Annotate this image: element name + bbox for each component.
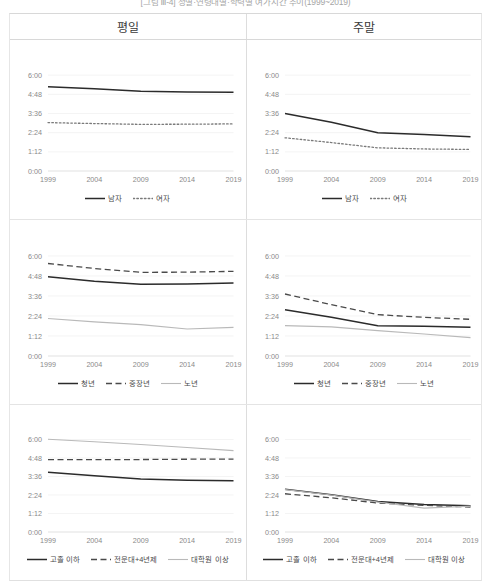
x-tick-label: 2004 [86, 175, 102, 184]
legend-key-icon [27, 556, 47, 563]
y-tick-label: 1:12 [265, 147, 279, 156]
legend-label: 청년 [317, 380, 331, 387]
series-line-여자 [285, 138, 471, 150]
y-tick-label: 4:48 [265, 454, 279, 463]
y-tick-label: 2:24 [28, 491, 42, 500]
figure-table: 평일 주말 0:001:122:243:364:486:001999200420… [9, 13, 482, 581]
y-tick-label: 6:00 [265, 71, 279, 80]
chart-cell-education-weekday: 0:001:122:243:364:486:001999200420092014… [10, 405, 246, 580]
chart-legend-education-weekend: 고졸 이하전문대+4년제대학원 이상 [247, 556, 483, 563]
legend-key-icon [133, 195, 153, 202]
legend-item[interactable]: 전문대+4년제 [91, 556, 157, 563]
figure-title: [그림 Ⅲ-4] 성별·연령대별·학력별 여가시간 추이(1999~2019) [0, 0, 491, 8]
y-tick-label: 3:36 [28, 472, 42, 481]
series-line-청년 [48, 277, 234, 285]
series-line-고졸 이하 [285, 489, 471, 506]
y-tick-label: 1:12 [265, 332, 279, 341]
y-tick-label: 4:48 [28, 454, 42, 463]
column-header-row: 평일 주말 [10, 14, 481, 40]
x-tick-label: 1999 [277, 360, 293, 369]
x-tick-label: 2009 [369, 175, 385, 184]
legend-item[interactable]: 남자 [322, 195, 359, 202]
legend-item[interactable]: 여자 [370, 195, 407, 202]
legend-key-icon [405, 556, 425, 563]
panel-education-weekday: 0:001:122:243:364:486:001999200420092014… [10, 405, 246, 580]
legend-label: 여자 [393, 195, 407, 202]
x-tick-label: 1999 [40, 536, 56, 545]
legend-item[interactable]: 청년 [58, 380, 95, 387]
series-line-중장년 [48, 264, 234, 273]
x-tick-label: 2004 [86, 536, 102, 545]
chart-row-gender: 0:001:122:243:364:486:001999200420092014… [10, 40, 481, 220]
x-tick-label: 2009 [133, 536, 149, 545]
legend-item[interactable]: 남자 [85, 195, 122, 202]
series-line-남자 [48, 87, 234, 93]
x-tick-label: 1999 [40, 175, 56, 184]
legend-item[interactable]: 고졸 이하 [263, 556, 316, 563]
y-tick-label: 1:12 [265, 509, 279, 518]
chart-svg-education-weekend: 0:001:122:243:364:486:001999200420092014… [247, 405, 483, 554]
y-tick-label: 3:36 [265, 472, 279, 481]
x-tick-label: 2014 [179, 175, 195, 184]
legend-key-icon [397, 380, 417, 387]
series-line-여자 [48, 123, 234, 125]
legend-item[interactable]: 전문대+4년제 [328, 556, 394, 563]
chart-svg-gender-weekend: 0:001:122:243:364:486:001999200420092014… [247, 40, 483, 193]
y-tick-label: 3:36 [265, 109, 279, 118]
y-tick-label: 6:00 [28, 252, 42, 261]
column-header-weekend: 주말 [246, 14, 482, 39]
legend-item[interactable]: 고졸 이하 [27, 556, 80, 563]
legend-key-icon [370, 195, 390, 202]
legend-key-icon [85, 195, 105, 202]
y-tick-label: 6:00 [28, 435, 42, 444]
x-tick-label: 1999 [40, 360, 56, 369]
x-tick-label: 2004 [86, 360, 102, 369]
legend-label: 고졸 이하 [50, 556, 80, 563]
chart-legend-education-weekday: 고졸 이하전문대+4년제대학원 이상 [10, 556, 246, 563]
x-tick-label: 2019 [462, 360, 478, 369]
legend-key-icon [168, 556, 188, 563]
x-tick-label: 2019 [462, 536, 478, 545]
y-tick-label: 2:24 [28, 128, 42, 137]
x-tick-label: 2009 [133, 360, 149, 369]
chart-svg-education-weekday: 0:001:122:243:364:486:001999200420092014… [10, 405, 246, 554]
x-tick-label: 2004 [323, 175, 339, 184]
y-tick-label: 2:24 [28, 312, 42, 321]
legend-item[interactable]: 노년 [397, 380, 434, 387]
y-tick-label: 2:24 [265, 491, 279, 500]
panel-age-weekend: 0:001:122:243:364:486:001999200420092014… [247, 220, 483, 404]
series-line-청년 [285, 310, 471, 328]
panel-education-weekend: 0:001:122:243:364:486:001999200420092014… [247, 405, 483, 580]
legend-item[interactable]: 여자 [133, 195, 170, 202]
legend-key-icon [342, 380, 362, 387]
x-tick-label: 2009 [133, 175, 149, 184]
x-tick-label: 2019 [226, 536, 242, 545]
legend-label: 전문대+4년제 [114, 556, 157, 563]
panel-gender-weekend: 0:001:122:243:364:486:001999200420092014… [247, 40, 483, 219]
y-tick-label: 1:12 [28, 147, 42, 156]
legend-label: 여자 [156, 195, 170, 202]
chart-row-education: 0:001:122:243:364:486:001999200420092014… [10, 405, 481, 580]
legend-label: 노년 [420, 380, 434, 387]
chart-cell-gender-weekday: 0:001:122:243:364:486:001999200420092014… [10, 40, 246, 219]
legend-key-icon [91, 556, 111, 563]
legend-item[interactable]: 중장년 [106, 380, 150, 387]
legend-item[interactable]: 대학원 이상 [168, 556, 228, 563]
legend-key-icon [161, 380, 181, 387]
y-tick-label: 6:00 [265, 252, 279, 261]
legend-key-icon [58, 380, 78, 387]
legend-label: 고졸 이하 [286, 556, 316, 563]
legend-item[interactable]: 대학원 이상 [405, 556, 465, 563]
y-tick-label: 2:24 [265, 128, 279, 137]
legend-key-icon [263, 556, 283, 563]
legend-item[interactable]: 청년 [294, 380, 331, 387]
legend-item[interactable]: 노년 [161, 380, 198, 387]
legend-item[interactable]: 중장년 [342, 380, 386, 387]
chart-legend-age-weekend: 청년중장년노년 [247, 380, 483, 387]
legend-key-icon [328, 556, 348, 563]
y-tick-label: 4:48 [28, 90, 42, 99]
x-tick-label: 2014 [416, 360, 432, 369]
x-tick-label: 2009 [369, 360, 385, 369]
y-tick-label: 4:48 [265, 272, 279, 281]
x-tick-label: 2009 [369, 536, 385, 545]
